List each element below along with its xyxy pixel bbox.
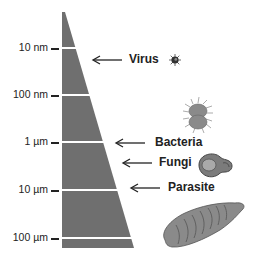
- arrow-fungi: [123, 159, 152, 167]
- size-scale-diagram: [0, 0, 256, 264]
- parasite-icon: [164, 203, 244, 247]
- bacteria-icon: [183, 97, 213, 133]
- arrow-bacteria: [116, 139, 145, 147]
- scale-label-100nm: 100 nm: [0, 88, 48, 100]
- label-fungi: Fungi: [159, 155, 192, 169]
- label-parasite: Parasite: [168, 180, 215, 194]
- label-virus: Virus: [129, 52, 159, 66]
- tick-100um: [51, 238, 59, 240]
- arrow-virus: [93, 56, 122, 64]
- scale-label-100um: 100 µm: [0, 231, 48, 243]
- tick-10um: [51, 190, 59, 192]
- scale-label-1um: 1 µm: [0, 135, 48, 147]
- scale-label-10um: 10 µm: [0, 183, 48, 195]
- fungi-icon: [199, 154, 232, 177]
- label-bacteria: Bacteria: [155, 135, 202, 149]
- tick-1um: [51, 142, 59, 144]
- tick-10nm: [51, 48, 59, 50]
- tick-100nm: [51, 95, 59, 97]
- arrow-parasite: [131, 184, 160, 192]
- virus-icon: [169, 54, 181, 66]
- scale-label-10nm: 10 nm: [0, 41, 48, 53]
